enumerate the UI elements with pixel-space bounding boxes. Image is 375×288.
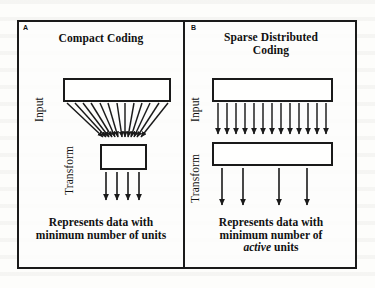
panel-b-letter: B (191, 24, 196, 31)
figure-root: A Compact Coding Input Transform (0, 0, 375, 288)
panel-a-output-arrows (106, 172, 139, 200)
panel-b-caption-line-2: minimum number of (185, 229, 357, 242)
panel-a-caption-line-1: Represents data with (17, 216, 185, 229)
panel-b-input-box (212, 78, 333, 102)
panel-a-input-label: Input (33, 97, 45, 122)
panel-b-sparse-distributed-coding: B Sparse Distributed Coding Input Transf… (185, 20, 357, 269)
panel-a-letter: A (23, 24, 28, 31)
panel-b-input-label: Input (189, 97, 201, 122)
panel-a-compact-coding: A Compact Coding Input Transform (17, 20, 185, 269)
panel-b-transform-box (212, 142, 333, 166)
panel-b-caption: Represents data with minimum number of a… (185, 216, 357, 254)
panel-a-title: Compact Coding (17, 32, 185, 45)
panel-a-converging-connections (67, 103, 168, 137)
panel-b-parallel-connections (218, 103, 326, 134)
panel-b-transform-label: Transform (189, 154, 201, 203)
panel-b-title-line-2: Coding (185, 44, 357, 57)
panel-a-caption-line-2: minimum number of units (17, 229, 185, 242)
panel-a-transform-box (100, 144, 147, 170)
panel-b-caption-emphasis: active (243, 241, 271, 253)
panel-b-title: Sparse Distributed Coding (185, 31, 357, 56)
panel-a-input-box (63, 78, 171, 102)
panel-a-caption: Represents data with minimum number of u… (17, 216, 185, 241)
panel-b-caption-line-1: Represents data with (185, 216, 357, 229)
panel-b-output-arrows (222, 168, 307, 205)
panel-b-title-line-1: Sparse Distributed (185, 31, 357, 44)
panel-b-caption-suffix: units (271, 241, 298, 253)
panel-a-transform-label: Transform (63, 146, 75, 195)
panel-b-caption-line-3: active units (185, 241, 357, 254)
